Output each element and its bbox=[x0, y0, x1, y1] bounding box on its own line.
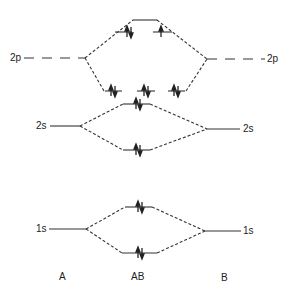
label-1s-right: 1s bbox=[243, 226, 254, 236]
label-1s-left: 1s bbox=[36, 224, 47, 234]
column-label-b: B bbox=[221, 273, 228, 283]
mo-diagram: 2p 2p 2s 2s 1s 1s A AB B bbox=[0, 0, 291, 299]
column-label-ab: AB bbox=[131, 272, 144, 282]
mo-diagram-lines bbox=[0, 0, 291, 299]
electron-single-icon bbox=[159, 26, 163, 37]
label-2s-left: 2s bbox=[36, 121, 47, 131]
column-label-a: A bbox=[59, 272, 66, 282]
label-2p-right: 2p bbox=[267, 54, 278, 64]
label-2p-left: 2p bbox=[10, 53, 21, 63]
label-2s-right: 2s bbox=[243, 124, 254, 134]
